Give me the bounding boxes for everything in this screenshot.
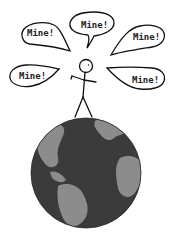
speech-bubble-mid-left: Mine! bbox=[10, 65, 59, 87]
speech-text: Mine! bbox=[27, 28, 54, 38]
head bbox=[80, 60, 93, 73]
comic-illustration: Mine! Mine! Mine! Mine! Mine! bbox=[0, 0, 177, 240]
speech-bubble-top-right: Mine! bbox=[111, 25, 164, 55]
speech-bubble-top-center: Mine! bbox=[70, 12, 114, 48]
left-leg bbox=[75, 97, 83, 117]
speech-text: Mine! bbox=[81, 20, 108, 30]
speech-text: Mine! bbox=[19, 71, 46, 81]
eye bbox=[88, 64, 89, 65]
speech-bubble-mid-right: Mine! bbox=[107, 67, 165, 89]
speech-bubble-top-left: Mine! bbox=[22, 23, 70, 51]
speech-text: Mine! bbox=[132, 75, 159, 85]
body bbox=[83, 73, 85, 98]
right-leg bbox=[83, 97, 92, 117]
globe bbox=[31, 118, 143, 228]
right-arm bbox=[84, 80, 96, 82]
left-hand bbox=[71, 76, 72, 79]
speech-text: Mine! bbox=[133, 32, 160, 42]
stick-figure bbox=[71, 60, 96, 118]
left-arm bbox=[72, 76, 84, 80]
